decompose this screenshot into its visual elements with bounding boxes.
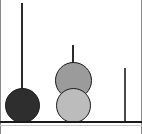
baseline	[0, 121, 142, 123]
frame-right-edge	[141, 0, 142, 134]
frame-left-edge	[0, 0, 1, 134]
figure-canvas	[0, 0, 142, 134]
node-dark	[5, 88, 40, 123]
stem-2	[72, 45, 74, 63]
stem-3	[124, 68, 126, 121]
baseline-shadow	[0, 125, 142, 126]
node-light	[56, 88, 91, 123]
